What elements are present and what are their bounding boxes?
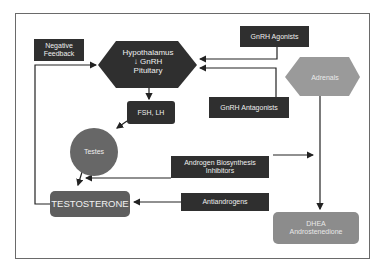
abi-label-line1: Androgen Biosynthesis	[184, 159, 256, 167]
androgen-biosynthesis-inhibitors-box: Androgen Biosynthesis Inhibitors	[171, 156, 269, 178]
gnrh-label: GnRH	[140, 57, 162, 66]
testes-label: Testes	[84, 148, 104, 156]
hypothalamus-node: Hypothalamus ↓ GnRH Pituitary	[108, 48, 188, 75]
gnrh-agonists-box: GnRH Agonists	[240, 26, 309, 47]
adrenals-node: Adrenals	[295, 73, 355, 82]
testosterone-label: TESTOSTERONE	[51, 200, 128, 208]
negative-feedback-box: Negative Feedback	[34, 39, 84, 61]
testes-circle: Testes	[70, 128, 118, 176]
antiandrogens-label: Antiandrogens	[202, 198, 247, 206]
testosterone-box: TESTOSTERONE	[50, 191, 130, 217]
fsh-lh-label: FSH, LH	[138, 109, 165, 117]
dhea-box: DHEA Androstenedione	[273, 212, 359, 244]
dhea-label: DHEA	[306, 220, 325, 228]
gnrh-antagonists-box: GnRH Antagonists	[209, 97, 289, 118]
pituitary-label: Pituitary	[108, 66, 188, 75]
adrenals-label: Adrenals	[311, 74, 339, 81]
gnrh-row: ↓ GnRH	[108, 57, 188, 66]
hypothalamus-label: Hypothalamus	[108, 48, 188, 57]
negative-feedback-label: Negative Feedback	[44, 42, 75, 58]
fsh-lh-box: FSH, LH	[127, 101, 175, 124]
androstenedione-label: Androstenedione	[290, 228, 343, 236]
abi-label-line2: Inhibitors	[206, 167, 234, 175]
down-arrow-icon: ↓	[134, 57, 138, 66]
gnrh-agonists-label: GnRH Agonists	[251, 33, 299, 41]
antiandrogens-box: Antiandrogens	[181, 193, 269, 211]
gnrh-antagonists-label: GnRH Antagonists	[220, 104, 278, 112]
